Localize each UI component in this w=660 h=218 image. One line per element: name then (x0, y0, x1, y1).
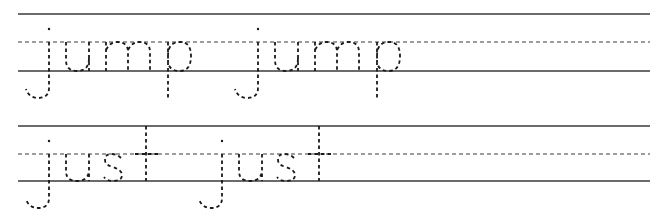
letter-s (104, 154, 122, 181)
handwriting-worksheet: jump just (0, 0, 660, 218)
letter-u (66, 154, 89, 181)
traced-word-just-2 (199, 126, 331, 208)
letter-j (26, 42, 49, 98)
worksheet-canvas (0, 0, 660, 218)
letter-p (168, 42, 191, 98)
letter-u (66, 42, 89, 71)
j-dot (48, 28, 50, 30)
traced-word-just-1 (26, 126, 158, 208)
traced-word-jump-2 (235, 28, 400, 98)
letter-m (106, 42, 150, 71)
traced-word-jump-1 (26, 28, 191, 98)
j-dot (48, 140, 50, 142)
row-1-guide-lines (18, 14, 650, 71)
letter-t (135, 126, 158, 181)
